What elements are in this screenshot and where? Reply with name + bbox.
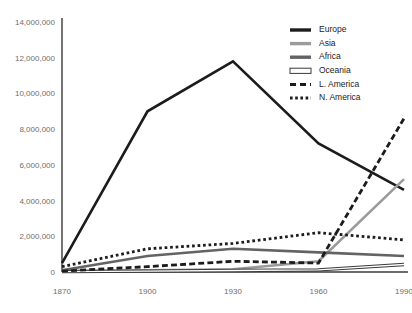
x-tick-label: 1900 — [139, 287, 157, 296]
chart-container: 02,000,0004,000,0006,000,0008,000,00010,… — [0, 0, 412, 313]
legend-label-oceania: Oceania — [319, 65, 351, 75]
legend-label-l--america: L. America — [319, 79, 359, 89]
y-tick-label: 12,000,000 — [15, 54, 56, 63]
y-tick-label: 14,000,000 — [15, 18, 56, 27]
y-axis-tick-labels: 02,000,0004,000,0006,000,0008,000,00010,… — [15, 18, 56, 277]
y-tick-label: 0 — [51, 268, 56, 277]
legend-label-europe: Europe — [319, 24, 347, 34]
legend-label-n--america: N. America — [319, 92, 361, 102]
legend-label-asia: Asia — [319, 38, 336, 48]
y-tick-label: 6,000,000 — [19, 161, 55, 170]
legend-swatch-oceania — [290, 68, 311, 73]
legend-label-africa: Africa — [319, 51, 341, 61]
x-tick-label: 1990 — [395, 287, 412, 296]
y-tick-label: 8,000,000 — [19, 125, 55, 134]
y-tick-label: 2,000,000 — [19, 232, 55, 241]
x-tick-label: 1960 — [310, 287, 328, 296]
x-tick-label: 1870 — [53, 287, 71, 296]
y-tick-label: 4,000,000 — [19, 197, 55, 206]
y-tick-label: 10,000,000 — [15, 89, 56, 98]
chart-legend: EuropeAsiaAfricaOceaniaL. AmericaN. Amer… — [290, 24, 361, 102]
x-tick-label: 1930 — [224, 287, 242, 296]
line-chart: 02,000,0004,000,0006,000,0008,000,00010,… — [0, 0, 412, 313]
x-axis-tick-labels: 18701900193019601990 — [53, 287, 412, 296]
